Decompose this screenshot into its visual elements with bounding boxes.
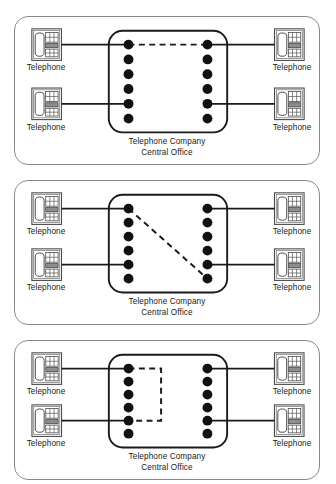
- contact-dot-icon-right-3[interactable]: [203, 232, 213, 242]
- telephone-icon-right-1: [275, 29, 305, 61]
- contact-dot-icon-left-6[interactable]: [124, 274, 134, 284]
- contact-dot-icon-right-1[interactable]: [202, 364, 212, 374]
- contact-dot-icon-left-6[interactable]: [124, 429, 134, 439]
- panel-3: Telephone CompanyCentral OfficeTelephone…: [14, 340, 320, 480]
- telephone-label-right-2: Telephone: [260, 283, 324, 293]
- central-office-label: Telephone CompanyCentral Office: [15, 297, 319, 318]
- contact-dot-icon-left-1[interactable]: [124, 40, 134, 50]
- contact-dot-icon-right-1[interactable]: [203, 40, 213, 50]
- contact-dot-icon-right-5[interactable]: [203, 99, 213, 109]
- central-office-label-line1: Telephone Company: [15, 297, 319, 308]
- contact-dot-icon-left-4[interactable]: [124, 246, 134, 256]
- central-office-label-line1: Telephone Company: [15, 452, 319, 463]
- telephone-icon-left-2: [32, 88, 62, 120]
- contact-dot-icon-left-3[interactable]: [124, 69, 134, 79]
- diagram-canvas: Telephone CompanyCentral OfficeTelephone…: [0, 0, 336, 484]
- contact-dot-icon-right-1[interactable]: [203, 204, 213, 214]
- telephone-label-left-1: Telephone: [14, 63, 78, 73]
- telephone-icon-right-2: [274, 405, 304, 437]
- contact-dot-icon-left-1[interactable]: [124, 364, 134, 374]
- telephone-icon-left-1: [32, 353, 62, 385]
- telephone-label-right-2: Telephone: [260, 439, 324, 449]
- contact-dot-icon-left-5[interactable]: [124, 99, 134, 109]
- telephone-icon-left-2: [32, 249, 62, 281]
- contact-dot-icon-left-3[interactable]: [124, 232, 134, 242]
- central-office-label: Telephone CompanyCentral Office: [15, 452, 319, 473]
- telephone-icon-left-2: [32, 405, 62, 437]
- panel-1: Telephone CompanyCentral OfficeTelephone…: [14, 16, 320, 165]
- central-office-label-line1: Telephone Company: [15, 137, 319, 148]
- contact-dot-icon-left-5[interactable]: [124, 260, 134, 270]
- contact-dot-icon-left-2[interactable]: [124, 377, 134, 387]
- contact-dot-icon-right-3[interactable]: [203, 69, 213, 79]
- contact-dot-icon-right-2[interactable]: [202, 377, 212, 387]
- telephone-label-left-2: Telephone: [14, 439, 78, 449]
- telephone-label-right-1: Telephone: [260, 227, 324, 237]
- central-office-label-line2: Central Office: [15, 148, 319, 159]
- telephone-label-left-1: Telephone: [14, 387, 78, 397]
- contact-dot-icon-right-3[interactable]: [202, 390, 212, 400]
- telephone-icon-right-2: [275, 88, 305, 120]
- panel-2: Telephone CompanyCentral OfficeTelephone…: [14, 180, 320, 325]
- contact-dot-icon-right-5[interactable]: [203, 260, 213, 270]
- contact-dot-icon-right-5[interactable]: [202, 416, 212, 426]
- contact-dot-icon-left-6[interactable]: [124, 114, 134, 124]
- telephone-icon-left-1: [32, 29, 62, 61]
- central-office-label: Telephone CompanyCentral Office: [15, 137, 319, 158]
- telephone-label-right-2: Telephone: [260, 123, 324, 133]
- central-office-label-line2: Central Office: [15, 463, 319, 474]
- telephone-icon-right-1: [274, 353, 304, 385]
- contact-dot-icon-left-2[interactable]: [124, 218, 134, 228]
- contact-dot-icon-left-4[interactable]: [124, 84, 134, 94]
- telephone-label-right-1: Telephone: [260, 63, 324, 73]
- telephone-icon-right-2: [274, 249, 304, 281]
- contact-dot-icon-left-3[interactable]: [124, 390, 134, 400]
- contact-dot-icon-right-4[interactable]: [203, 246, 213, 256]
- contact-dot-icon-left-2[interactable]: [124, 54, 134, 64]
- telephone-label-right-1: Telephone: [260, 387, 324, 397]
- contact-dot-icon-right-4[interactable]: [203, 84, 213, 94]
- contact-dot-icon-right-6[interactable]: [202, 429, 212, 439]
- telephone-label-left-2: Telephone: [14, 283, 78, 293]
- contact-dot-icon-right-6[interactable]: [203, 114, 213, 124]
- contact-dot-icon-left-5[interactable]: [124, 416, 134, 426]
- telephone-icon-right-1: [274, 193, 304, 225]
- telephone-icon-left-1: [32, 193, 62, 225]
- central-office-label-line2: Central Office: [15, 308, 319, 319]
- contact-dot-icon-right-4[interactable]: [202, 403, 212, 413]
- telephone-label-left-1: Telephone: [14, 227, 78, 237]
- telephone-label-left-2: Telephone: [14, 123, 78, 133]
- contact-dot-icon-right-6[interactable]: [203, 274, 213, 284]
- contact-dot-icon-left-4[interactable]: [124, 403, 134, 413]
- contact-dot-icon-right-2[interactable]: [203, 218, 213, 228]
- contact-dot-icon-right-2[interactable]: [203, 54, 213, 64]
- contact-dot-icon-left-1[interactable]: [124, 204, 134, 214]
